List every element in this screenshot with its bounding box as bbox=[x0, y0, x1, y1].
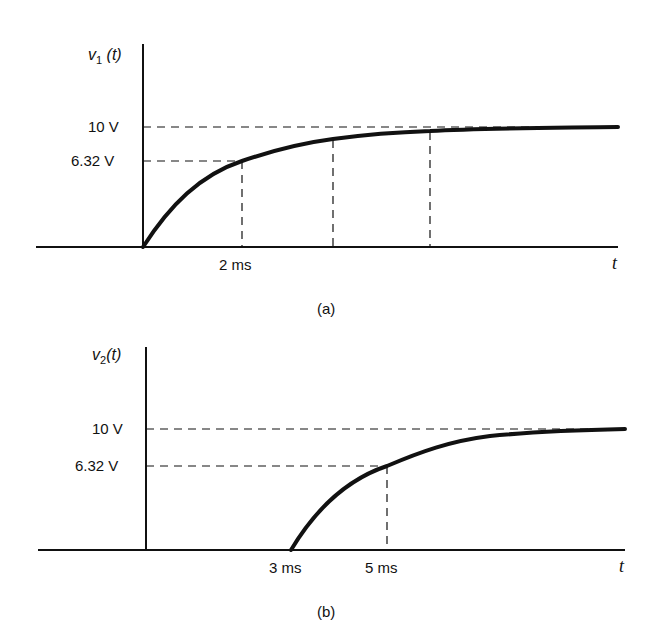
panel-b-caption: (b) bbox=[317, 603, 335, 620]
panel-b-ytick-10v: 10 V bbox=[92, 420, 123, 437]
panel-a-ytick-10v: 10 V bbox=[88, 118, 119, 135]
panel-b-xtick-5ms: 5 ms bbox=[365, 559, 398, 576]
panel-a-y-var: v bbox=[88, 46, 96, 63]
panel-a-y-arg: (t) bbox=[107, 46, 122, 63]
panel-a-y-sub: 1 bbox=[96, 54, 102, 66]
panel-b-graphics bbox=[38, 347, 625, 550]
panel-a-ytick-632v: 6.32 V bbox=[71, 152, 114, 169]
panel-b-xtick-3ms: 3 ms bbox=[269, 559, 302, 576]
panel-a-curve bbox=[143, 127, 618, 247]
panel-a-graphics bbox=[36, 44, 618, 247]
panel-b-y-arg: (t) bbox=[106, 346, 121, 363]
panel-b-ytick-632v: 6.32 V bbox=[75, 457, 118, 474]
panel-b-y-var: v bbox=[92, 346, 100, 363]
panel-a-caption: (a) bbox=[317, 300, 335, 317]
panel-a-y-axis-label: v1 (t) bbox=[88, 46, 122, 66]
panel-b-x-axis-label: t bbox=[619, 556, 624, 577]
panel-a-x-axis-label: t bbox=[612, 253, 617, 274]
panel-a-xtick-2ms: 2 ms bbox=[219, 256, 252, 273]
panel-b-curve bbox=[291, 429, 625, 550]
panel-b-y-axis-label: v2(t) bbox=[92, 346, 121, 366]
panel-a-plot bbox=[0, 0, 657, 638]
